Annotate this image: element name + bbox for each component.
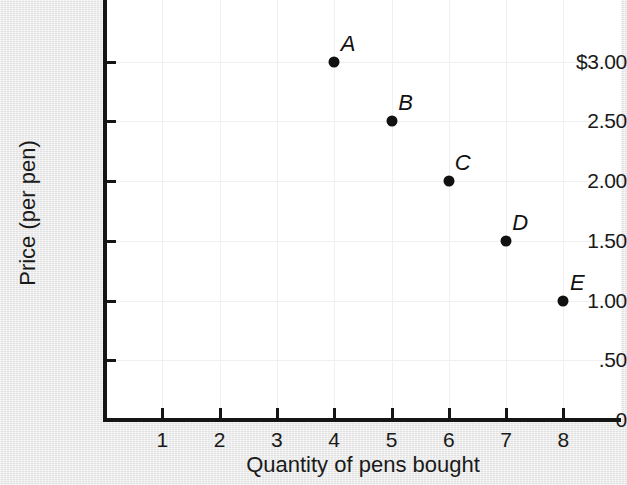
data-point-label: A bbox=[341, 31, 356, 57]
data-point-label: B bbox=[398, 90, 413, 116]
y-axis-tick bbox=[105, 61, 116, 64]
x-axis-tick bbox=[505, 408, 508, 420]
scatter-chart-figure: ABCDE 0.501.001.502.002.50$3.00 12345678… bbox=[0, 0, 627, 485]
gridline-vertical bbox=[392, 0, 393, 420]
gridline-vertical bbox=[162, 0, 163, 420]
data-point bbox=[443, 176, 454, 187]
x-axis-tick bbox=[391, 408, 394, 420]
x-axis-tick bbox=[161, 408, 164, 420]
y-axis-tick-label: 1.00 bbox=[541, 289, 627, 313]
x-axis-tick-label: 3 bbox=[257, 428, 297, 452]
x-axis-tick-label: 8 bbox=[543, 428, 583, 452]
y-axis-tick-label: 2.50 bbox=[541, 109, 627, 133]
data-point bbox=[329, 56, 340, 67]
gridline-vertical bbox=[220, 0, 221, 420]
gridline-vertical bbox=[277, 0, 278, 420]
x-axis-tick-label: 2 bbox=[200, 428, 240, 452]
y-axis-tick bbox=[105, 180, 116, 183]
x-axis-tick-label: 7 bbox=[486, 428, 526, 452]
x-axis-tick bbox=[333, 408, 336, 420]
y-axis-tick bbox=[105, 120, 116, 123]
x-axis-tick bbox=[219, 408, 222, 420]
gridline-vertical bbox=[506, 0, 507, 420]
x-axis-tick-label: 4 bbox=[314, 428, 354, 452]
x-axis-tick bbox=[276, 408, 279, 420]
y-axis-tick bbox=[105, 240, 116, 243]
x-axis-tick bbox=[448, 408, 451, 420]
x-axis-tick-label: 6 bbox=[429, 428, 469, 452]
y-axis-tick bbox=[105, 359, 116, 362]
data-point bbox=[501, 235, 512, 246]
data-point-label: D bbox=[512, 210, 528, 236]
gridline-vertical bbox=[449, 0, 450, 420]
data-point-label: C bbox=[455, 150, 471, 176]
y-axis-tick-label: .50 bbox=[541, 348, 627, 372]
x-axis-tick-label: 1 bbox=[142, 428, 182, 452]
x-axis-tick-label: 5 bbox=[372, 428, 412, 452]
data-point bbox=[386, 116, 397, 127]
x-axis-title: Quantity of pens bought bbox=[105, 452, 621, 478]
y-axis-tick-label: 2.00 bbox=[541, 169, 627, 193]
y-axis-tick-label: 1.50 bbox=[541, 229, 627, 253]
y-axis-title: Price (per pen) bbox=[15, 93, 41, 333]
y-axis-tick bbox=[105, 300, 116, 303]
y-axis-tick-label: $3.00 bbox=[541, 50, 627, 74]
